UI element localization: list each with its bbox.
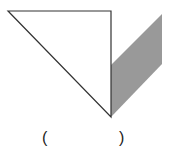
shaded-parallelogram bbox=[111, 14, 162, 117]
answer-left-paren: ( bbox=[42, 130, 47, 146]
geometry-figure bbox=[0, 0, 176, 158]
answer-right-paren: ) bbox=[119, 130, 124, 146]
triangle bbox=[8, 11, 111, 117]
